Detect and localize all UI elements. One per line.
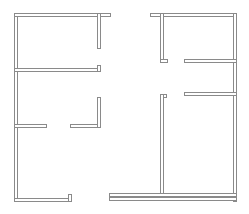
wall-left-lower-horizontal-a xyxy=(14,124,47,128)
wall-right-upper-foot xyxy=(160,59,168,63)
floor-plan xyxy=(0,0,249,214)
wall-outer-left xyxy=(14,13,18,202)
wall-left-mid-horizontal xyxy=(14,68,101,72)
wall-right-lower-vertical xyxy=(160,94,164,197)
wall-outer-right xyxy=(233,13,237,202)
wall-right-horizontal-b xyxy=(184,92,237,96)
wall-right-horizontal-a xyxy=(184,59,237,63)
wall-bottom-right-outer xyxy=(109,197,237,201)
wall-right-upper-vertical xyxy=(160,13,164,63)
wall-left-upper-vertical xyxy=(97,13,101,49)
wall-left-lower-vertical xyxy=(97,97,101,128)
wall-outer-bottom-left xyxy=(14,198,72,202)
wall-outer-bottom-left-stub xyxy=(68,194,72,202)
wall-left-mid-stub xyxy=(97,65,101,72)
